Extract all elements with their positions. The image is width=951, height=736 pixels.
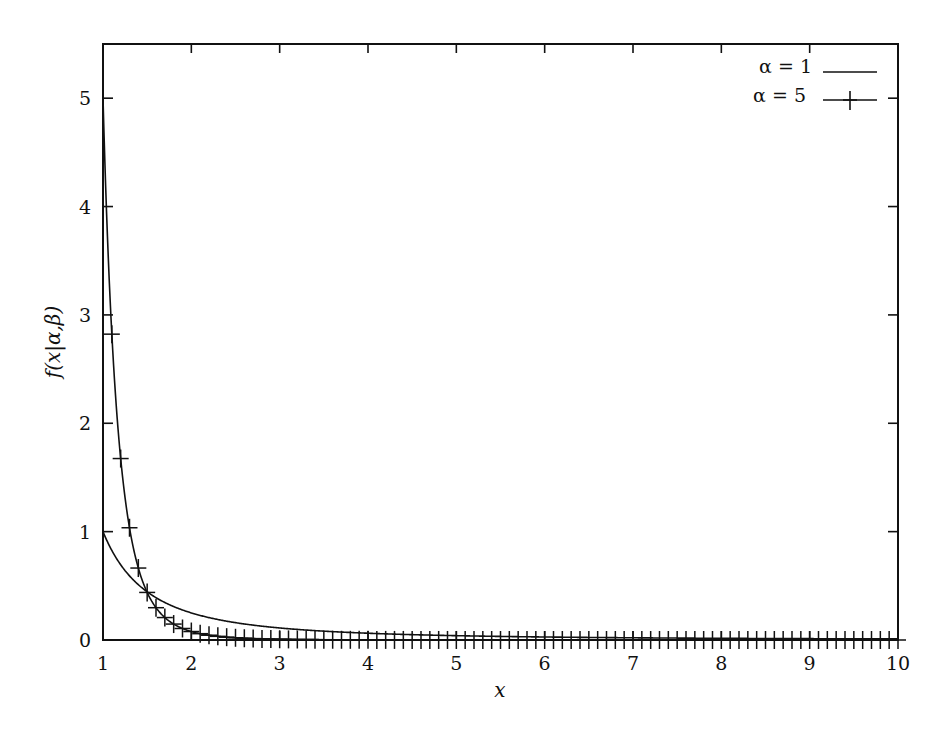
x-tick-label: 4 bbox=[362, 652, 374, 674]
plus-marker-icon bbox=[183, 623, 199, 641]
y-tick-label: 0 bbox=[79, 629, 91, 651]
legend-label-alpha-5: α = 5 bbox=[753, 84, 806, 106]
x-axis-label: x bbox=[494, 678, 505, 702]
chart-canvas: 12345678910 012345 x f(x|α,β) α = 1 α = … bbox=[0, 0, 951, 736]
plus-marker-icon bbox=[104, 325, 120, 343]
x-tick-label: 9 bbox=[804, 652, 816, 674]
plus-marker-icon bbox=[130, 559, 146, 577]
series-line-2 bbox=[103, 98, 898, 640]
y-tick-label: 1 bbox=[79, 521, 91, 543]
x-tick-label: 6 bbox=[539, 652, 551, 674]
plus-marker-icon bbox=[890, 631, 906, 649]
y-axis-ticks: 012345 bbox=[79, 87, 898, 651]
x-tick-label: 8 bbox=[715, 652, 727, 674]
plus-marker-icon bbox=[175, 619, 191, 637]
plus-marker-icon bbox=[201, 626, 217, 644]
legend: α = 1 α = 5 bbox=[753, 55, 877, 110]
plot-frame bbox=[103, 44, 898, 640]
x-tick-label: 5 bbox=[450, 652, 462, 674]
y-tick-label: 5 bbox=[79, 87, 91, 109]
series-group bbox=[103, 98, 906, 649]
x-axis-ticks: 12345678910 bbox=[97, 44, 910, 674]
x-tick-label: 3 bbox=[274, 652, 286, 674]
x-tick-label: 7 bbox=[627, 652, 639, 674]
x-tick-label: 1 bbox=[97, 652, 109, 674]
y-tick-label: 4 bbox=[79, 196, 91, 218]
plus-marker-icon bbox=[122, 519, 138, 537]
y-tick-label: 2 bbox=[79, 412, 91, 434]
series-line-1 bbox=[103, 532, 898, 639]
x-tick-label: 10 bbox=[886, 652, 910, 674]
legend-label-alpha-1: α = 1 bbox=[759, 55, 812, 77]
plus-marker-icon bbox=[113, 450, 129, 468]
y-axis-label: f(x|α,β) bbox=[41, 306, 66, 380]
x-tick-label: 2 bbox=[185, 652, 197, 674]
plus-marker-icon bbox=[210, 627, 226, 645]
y-tick-label: 3 bbox=[79, 304, 91, 326]
plus-marker-icon bbox=[139, 583, 155, 601]
